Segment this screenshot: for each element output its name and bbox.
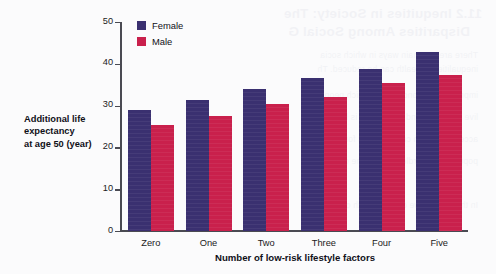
x-axis-title: Number of low-risk lifestyle factors [120, 252, 470, 263]
legend-swatch-female-icon [137, 21, 146, 30]
bar-group: One [180, 22, 238, 231]
bar-female-zero[interactable] [128, 110, 151, 231]
legend-swatch-male-icon [137, 37, 146, 46]
bar-male-five[interactable] [439, 75, 462, 231]
y-axis-tick-label: 30 [103, 99, 113, 109]
x-axis-tick-label: Four [353, 238, 411, 248]
bar-male-two[interactable] [266, 104, 289, 231]
bar-group: Five [410, 22, 468, 231]
x-axis-tick-label: Three [295, 238, 353, 248]
x-axis-tick-label: Two [237, 238, 295, 248]
legend-label-female: Female [152, 20, 183, 31]
bar-male-four[interactable] [382, 83, 405, 231]
bar-male-zero[interactable] [151, 125, 174, 231]
bar-female-one[interactable] [186, 100, 209, 231]
y-axis-tick-mark [115, 106, 120, 107]
bar-group: Two [237, 22, 295, 231]
y-axis-tick-mark [115, 64, 120, 65]
bar-female-five[interactable] [416, 52, 439, 231]
legend-item-male: Male [137, 36, 183, 47]
y-axis-tick-mark [115, 189, 120, 190]
y-axis-tick-mark [115, 22, 120, 23]
bar-group: Zero [122, 22, 180, 231]
y-axis-title-line-1: Additional life [24, 113, 116, 125]
y-axis-tick-label: 0 [108, 225, 113, 235]
bar-groups: ZeroOneTwoThreeFourFive [122, 22, 468, 231]
y-axis-tick-label: 40 [103, 57, 113, 67]
legend-item-female: Female [137, 20, 183, 31]
y-axis-tick-mark [115, 231, 120, 232]
bar-male-one[interactable] [209, 116, 232, 231]
bar-group: Four [353, 22, 411, 231]
y-axis-title-line-2: expectancy [24, 125, 116, 137]
y-axis-tick-label: 20 [103, 141, 113, 151]
legend-label-male: Male [152, 36, 172, 47]
bar-female-two[interactable] [243, 89, 266, 231]
x-axis-tick-label: Zero [122, 238, 180, 248]
x-axis-tick-label: Five [410, 238, 468, 248]
bar-male-three[interactable] [324, 97, 347, 231]
chart-page: 11.2 Inequities in Society: The Disparit… [0, 0, 496, 274]
y-axis-tick-label: 50 [103, 16, 113, 26]
y-axis-tick-mark [115, 147, 120, 148]
bar-group: Three [295, 22, 353, 231]
chart-legend: Female Male [137, 20, 183, 52]
bar-female-three[interactable] [301, 78, 324, 231]
x-axis-tick-label: One [180, 238, 238, 248]
bar-female-four[interactable] [359, 69, 382, 231]
y-axis-tick-label: 10 [103, 183, 113, 193]
